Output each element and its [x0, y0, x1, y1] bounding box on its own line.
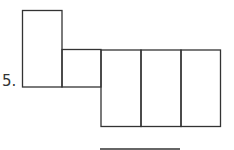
face-right-3	[181, 50, 221, 127]
face-left-tall	[23, 11, 63, 88]
face-right-2	[141, 50, 181, 127]
net-figure	[0, 0, 234, 150]
face-small-square	[62, 50, 101, 88]
face-right-1	[101, 50, 141, 127]
